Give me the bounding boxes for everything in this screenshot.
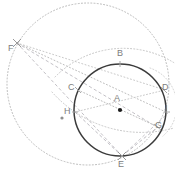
upper-dotted-arc <box>55 48 175 77</box>
label-D: D <box>162 83 169 92</box>
label-E: E <box>118 160 124 169</box>
outer-center-dot <box>60 116 63 119</box>
label-H: H <box>64 107 71 116</box>
geometry-figure: A B C D E F G H I <box>0 0 175 183</box>
outer-dotted-circle <box>7 3 169 165</box>
geometry-canvas <box>0 0 175 183</box>
segment-H-to-E <box>75 112 122 156</box>
label-I: I <box>165 104 168 113</box>
center-dot-A <box>118 108 122 112</box>
label-C: C <box>68 83 75 92</box>
segment-F-to-D <box>17 43 165 90</box>
label-G: G <box>155 121 162 130</box>
label-B: B <box>117 49 123 58</box>
label-F: F <box>8 44 14 53</box>
label-A: A <box>114 94 120 103</box>
